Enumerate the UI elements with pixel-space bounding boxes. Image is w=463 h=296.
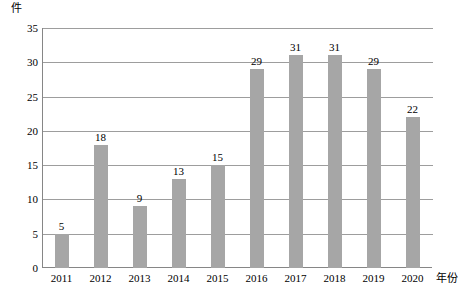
bar-slot: 31 [315,28,354,268]
bar-value-label: 31 [290,41,301,53]
y-axis-tick-label: 35 [4,23,38,34]
bars-layer: 518913152931312922 [42,28,432,268]
bar-slot: 9 [120,28,159,268]
x-axis-tick-labels: 2011201220132014201520162017201820192020 [42,272,432,288]
bar-slot: 29 [237,28,276,268]
y-axis-tick-label: 25 [4,92,38,103]
bar-value-label: 9 [137,192,143,204]
x-axis-tick-label: 2015 [198,272,237,285]
y-axis-tick-label: 0 [4,263,38,274]
x-axis-tick-label: 2017 [276,272,315,285]
x-axis-tick-label: 2014 [159,272,198,285]
bar[interactable] [211,165,225,268]
x-axis-tick-label: 2020 [393,272,432,285]
bar[interactable] [172,179,186,268]
x-axis-unit-label: 年份 [436,272,458,285]
bar[interactable] [289,55,303,268]
bar-slot: 13 [159,28,198,268]
x-axis-tick-label: 2011 [42,272,81,285]
bar-value-label: 13 [173,165,184,177]
bar-slot: 29 [354,28,393,268]
y-axis-tick-label: 20 [4,126,38,137]
bar[interactable] [328,55,342,268]
bar-slot: 22 [393,28,432,268]
y-axis-tick-label: 5 [4,229,38,240]
y-axis-unit-label: 件 [11,2,22,15]
y-axis-tick-label: 10 [4,194,38,205]
bar[interactable] [406,117,420,268]
bar-value-label: 29 [251,55,262,67]
bar-chart: 件 年份 05101520253035 518913152931312922 2… [0,0,463,296]
x-axis-tick-label: 2013 [120,272,159,285]
bar-value-label: 22 [407,103,418,115]
y-axis-tick-labels: 05101520253035 [0,28,38,268]
bar-value-label: 31 [329,41,340,53]
bar-slot: 31 [276,28,315,268]
bar-slot: 18 [81,28,120,268]
x-axis-tick-label: 2018 [315,272,354,285]
bar[interactable] [55,234,69,268]
bar-value-label: 18 [95,131,106,143]
bar-value-label: 5 [59,220,65,232]
x-axis-tick-label: 2019 [354,272,393,285]
bar-value-label: 29 [368,55,379,67]
bar-slot: 5 [42,28,81,268]
bar-value-label: 15 [212,151,223,163]
bar-slot: 15 [198,28,237,268]
x-axis-tick-label: 2016 [237,272,276,285]
bar[interactable] [133,206,147,268]
bar[interactable] [94,145,108,268]
y-axis-tick-label: 15 [4,160,38,171]
bar[interactable] [250,69,264,268]
x-axis-tick-label: 2012 [81,272,120,285]
y-axis-tick-label: 30 [4,57,38,68]
bar[interactable] [367,69,381,268]
